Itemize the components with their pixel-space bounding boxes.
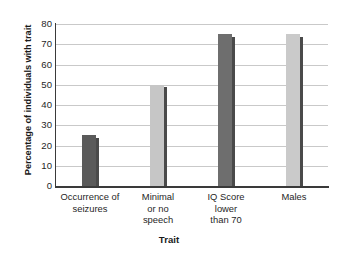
x-axis-category-label-line: lower: [184, 203, 268, 215]
y-axis-tick-label: 0: [30, 181, 52, 191]
bar-chart-figure: Percentage of individuals with trait 010…: [0, 0, 338, 258]
bar-body: [218, 34, 232, 186]
y-axis-tick-label: 30: [30, 120, 52, 130]
y-axis-tick-label: 10: [30, 161, 52, 171]
x-axis-title: Trait: [0, 234, 338, 245]
gridline: [56, 24, 328, 25]
bar-shadow-edge: [300, 37, 303, 186]
bar-shadow-edge: [232, 37, 235, 186]
y-axis-tick-labels: 01020304050607080: [26, 0, 52, 258]
y-axis-tick-label: 70: [30, 39, 52, 49]
x-axis-line: [55, 186, 329, 188]
plot-area: [56, 24, 328, 186]
x-axis-category-label-line: than 70: [184, 214, 268, 226]
y-axis-tick-label: 80: [30, 19, 52, 29]
x-axis-category-label: Males: [252, 191, 336, 203]
y-axis-line: [55, 23, 56, 187]
bar: [150, 85, 167, 186]
bar-body: [82, 135, 96, 186]
bar: [82, 135, 99, 186]
bar-body: [286, 34, 300, 186]
bar-shadow-edge: [164, 87, 167, 186]
bar-body: [150, 85, 164, 186]
bar: [218, 34, 235, 186]
y-axis-tick-label: 20: [30, 141, 52, 151]
bar-shadow-edge: [96, 138, 99, 186]
y-axis-tick-label: 60: [30, 60, 52, 70]
y-axis-tick-label: 50: [30, 80, 52, 90]
x-axis-category-label-line: Males: [252, 191, 336, 203]
y-axis-tick-label: 40: [30, 100, 52, 110]
bar: [286, 34, 303, 186]
